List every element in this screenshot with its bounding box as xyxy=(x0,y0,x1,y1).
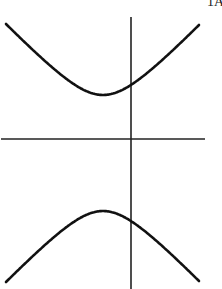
hyperbola-diagram: 1A xyxy=(0,0,222,289)
upper-hyperbola-branch xyxy=(6,24,199,95)
lower-hyperbola-branch xyxy=(6,211,199,282)
plot-canvas xyxy=(0,0,222,289)
